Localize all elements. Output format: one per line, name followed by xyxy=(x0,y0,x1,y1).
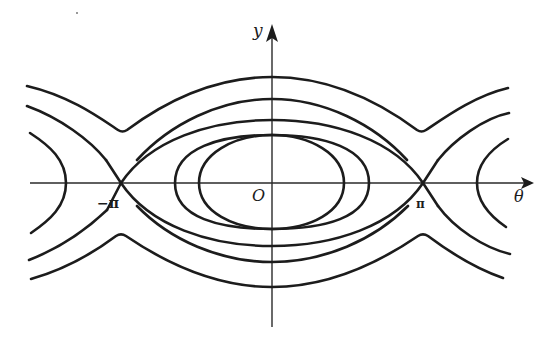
rotating-curve-bottom-inner xyxy=(29,206,510,262)
print-speck xyxy=(76,12,78,14)
phase-portrait xyxy=(0,0,546,341)
rotating-curve-top-inner xyxy=(27,99,509,160)
pi-label: π xyxy=(416,198,425,210)
theta-axis-label: θ xyxy=(514,189,524,205)
origin-label: O xyxy=(252,188,265,204)
rotating-curve-top-outer xyxy=(27,77,508,132)
y-axis-label: y xyxy=(253,22,263,39)
minus-pi-label: −π xyxy=(97,196,119,210)
